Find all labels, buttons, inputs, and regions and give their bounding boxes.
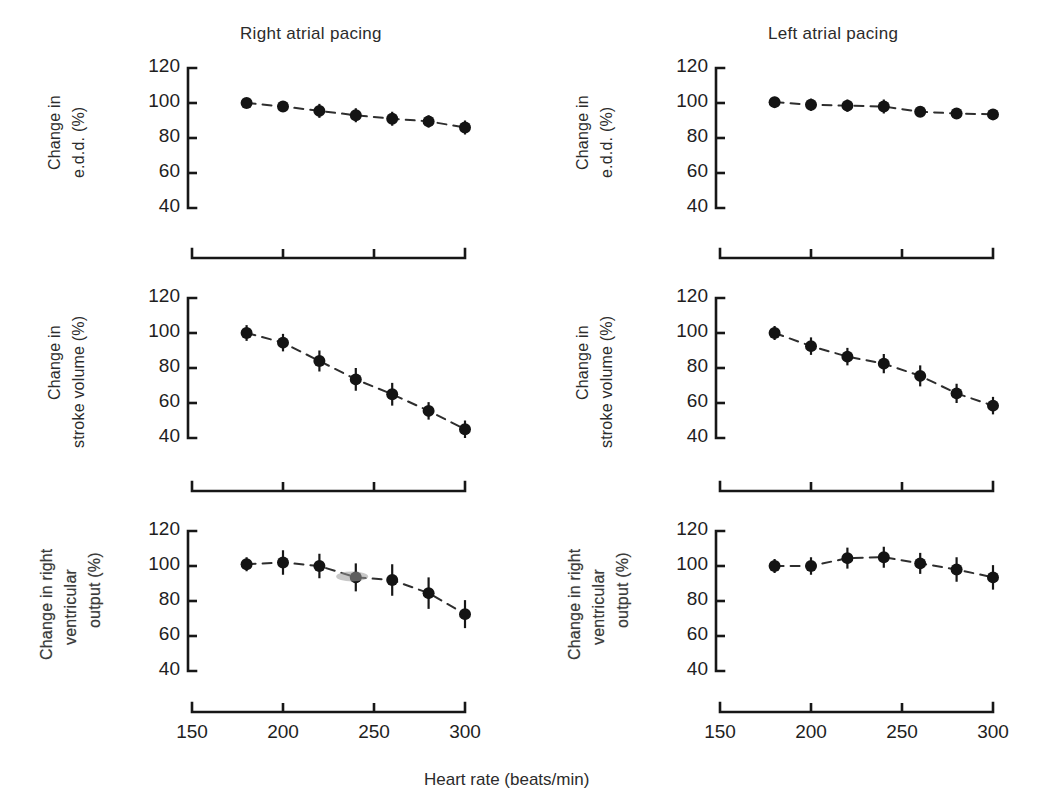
y-axis-label-row3-right-line1: Change in right <box>566 548 584 660</box>
data-point-row3-left-180 <box>241 558 253 570</box>
data-point-row2-right-220 <box>841 351 853 363</box>
y-tick-label-row2-right-100: 100 <box>654 320 708 342</box>
y-tick-label-row2-right-120: 120 <box>654 285 708 307</box>
x-axis-rule-row1-left <box>192 249 465 258</box>
data-point-row3-right-180 <box>769 560 781 572</box>
data-point-row1-left-300 <box>459 122 471 134</box>
data-point-row3-right-260 <box>914 557 926 569</box>
data-point-row2-right-240 <box>878 358 890 370</box>
data-point-row1-left-260 <box>386 113 398 125</box>
y-tick-label-row2-left-80: 80 <box>126 355 180 377</box>
x-axis-rule-row2-right <box>720 482 993 491</box>
y-axis-line-row3-right <box>716 531 724 671</box>
data-point-row1-right-260 <box>914 106 926 118</box>
data-point-row2-right-180 <box>769 327 781 339</box>
y-tick-label-row2-left-40: 40 <box>126 425 180 447</box>
y-tick-label-row1-left-100: 100 <box>126 90 180 112</box>
y-tick-label-row1-left-120: 120 <box>126 55 180 77</box>
y-tick-label-row3-left-60: 60 <box>126 623 180 645</box>
data-point-row3-right-300 <box>987 571 999 583</box>
data-point-row2-right-300 <box>987 400 999 412</box>
y-tick-label-row3-left-100: 100 <box>126 553 180 575</box>
y-axis-label-row3-left-line1: Change in right <box>38 548 56 660</box>
series-line-row1-right <box>775 102 993 114</box>
data-point-row1-right-300 <box>987 108 999 120</box>
y-tick-label-row2-right-40: 40 <box>654 425 708 447</box>
y-tick-label-row3-right-120: 120 <box>654 518 708 540</box>
x-axis-rule-row2-left <box>192 482 465 491</box>
y-axis-line-row3-left <box>188 531 196 671</box>
y-axis-label-row1-right-line2: e.d.d. (%) <box>598 107 616 178</box>
data-point-row2-left-220 <box>313 355 325 367</box>
data-point-row2-left-240 <box>350 373 362 385</box>
x-tick-label-row3-right-150: 150 <box>690 721 750 743</box>
data-point-row2-right-280 <box>951 387 963 399</box>
data-point-row1-right-180 <box>769 96 781 108</box>
y-axis-label-row3-left-line2: ventricular <box>62 569 80 645</box>
data-point-row3-left-260 <box>386 574 398 586</box>
data-point-row2-left-260 <box>386 388 398 400</box>
y-axis-label-row2-left-line1: Change in <box>46 325 64 400</box>
x-axis-rule-row3-right <box>720 703 993 712</box>
y-axis-label-row3-left-line3: output (%) <box>86 552 104 628</box>
data-point-row3-right-240 <box>878 551 890 563</box>
data-point-row3-right-280 <box>951 564 963 576</box>
data-point-row2-left-300 <box>459 423 471 435</box>
data-point-row2-right-260 <box>914 370 926 382</box>
series-line-row3-left <box>247 563 465 615</box>
y-axis-line-row1-left <box>188 68 196 208</box>
data-point-row1-left-240 <box>350 109 362 121</box>
y-tick-label-row1-right-60: 60 <box>654 160 708 182</box>
y-tick-label-row1-left-80: 80 <box>126 125 180 147</box>
data-point-row3-left-240 <box>350 571 362 583</box>
y-axis-label-row3-right-line3: output (%) <box>614 552 632 628</box>
data-point-row2-left-180 <box>241 327 253 339</box>
y-tick-label-row1-left-40: 40 <box>126 195 180 217</box>
y-tick-label-row1-left-60: 60 <box>126 160 180 182</box>
y-tick-label-row3-right-80: 80 <box>654 588 708 610</box>
data-point-row3-left-300 <box>459 608 471 620</box>
y-axis-label-row2-right-line1: Change in <box>574 325 592 400</box>
y-axis-label-row1-left-line1: Change in <box>46 95 64 170</box>
data-point-row3-right-220 <box>841 552 853 564</box>
y-tick-label-row3-left-80: 80 <box>126 588 180 610</box>
y-tick-label-row2-left-120: 120 <box>126 285 180 307</box>
print-smudge <box>336 572 368 582</box>
y-axis-label-row1-right-line1: Change in <box>574 95 592 170</box>
series-line-row1-left <box>247 103 465 128</box>
y-tick-label-row2-left-100: 100 <box>126 320 180 342</box>
y-tick-label-row3-left-40: 40 <box>126 658 180 680</box>
x-tick-label-row3-right-250: 250 <box>872 721 932 743</box>
y-tick-label-row2-right-60: 60 <box>654 390 708 412</box>
x-tick-label-row3-right-200: 200 <box>781 721 841 743</box>
data-point-row2-right-200 <box>805 340 817 352</box>
data-point-row3-left-200 <box>277 557 289 569</box>
data-point-row2-left-280 <box>423 405 435 417</box>
y-tick-label-row1-right-80: 80 <box>654 125 708 147</box>
data-point-row1-right-240 <box>878 101 890 113</box>
figure-canvas: Right atrial pacing Left atrial pacing H… <box>0 0 1047 805</box>
y-tick-label-row3-right-100: 100 <box>654 553 708 575</box>
y-tick-label-row1-right-40: 40 <box>654 195 708 217</box>
y-axis-label-row2-left-line2: stroke volume (%) <box>70 316 88 448</box>
y-tick-label-row1-right-120: 120 <box>654 55 708 77</box>
y-tick-label-row3-right-40: 40 <box>654 658 708 680</box>
series-line-row3-right <box>775 557 993 577</box>
x-axis-rule-row1-right <box>720 249 993 258</box>
y-axis-line-row1-right <box>716 68 724 208</box>
column-title-right-atrial-pacing: Right atrial pacing <box>240 24 382 44</box>
series-line-row2-left <box>247 333 465 429</box>
data-point-row1-left-180 <box>241 97 253 109</box>
data-point-row1-left-200 <box>277 101 289 113</box>
x-tick-label-row3-left-200: 200 <box>253 721 313 743</box>
y-tick-label-row2-left-60: 60 <box>126 390 180 412</box>
data-point-row1-left-220 <box>313 105 325 117</box>
column-title-left-atrial-pacing: Left atrial pacing <box>768 24 898 44</box>
data-point-row3-left-280 <box>423 587 435 599</box>
x-tick-label-row3-left-150: 150 <box>162 721 222 743</box>
series-line-row2-right <box>775 333 993 406</box>
x-tick-label-row3-right-300: 300 <box>963 721 1023 743</box>
data-point-row1-right-280 <box>951 108 963 120</box>
y-axis-label-row2-right-line2: stroke volume (%) <box>598 316 616 448</box>
y-axis-label-row1-left-line2: e.d.d. (%) <box>70 107 88 178</box>
